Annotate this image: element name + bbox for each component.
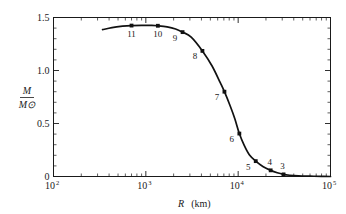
y-tick-label: 0.5 bbox=[37, 118, 50, 129]
data-point-label: 7 bbox=[215, 92, 220, 102]
data-point-label: 6 bbox=[230, 134, 235, 144]
chart-figure: 11109876543 102103104105 00.51.01.5 R(km… bbox=[0, 0, 346, 214]
data-point-marker bbox=[181, 30, 185, 34]
svg-text:5: 5 bbox=[333, 179, 336, 186]
data-point-marker bbox=[223, 90, 227, 94]
y-axis-tick-labels: 00.51.01.5 bbox=[37, 12, 50, 182]
y-axis-title: MM⊙ bbox=[18, 85, 36, 110]
x-axis-unit: (km) bbox=[191, 198, 210, 210]
data-point-marker bbox=[254, 159, 258, 163]
data-point-label: 8 bbox=[193, 51, 198, 61]
data-point-markers bbox=[130, 24, 286, 177]
y-axis-numerator: M bbox=[22, 85, 32, 96]
x-axis-title: R(km) bbox=[177, 198, 211, 210]
mass-radius-plot: 11109876543 102103104105 00.51.01.5 R(km… bbox=[0, 0, 346, 214]
y-axis-ticks bbox=[54, 18, 331, 177]
svg-text:2: 2 bbox=[56, 179, 59, 186]
svg-text:10: 10 bbox=[137, 180, 147, 191]
plot-border bbox=[54, 18, 331, 177]
data-point-marker bbox=[156, 24, 160, 28]
data-point-marker bbox=[201, 49, 205, 53]
data-point-label: 4 bbox=[267, 157, 272, 167]
x-tick-label: 103 bbox=[137, 179, 151, 191]
y-tick-label: 1.5 bbox=[37, 12, 50, 23]
y-axis-denominator: M⊙ bbox=[18, 99, 36, 110]
data-point-marker bbox=[282, 172, 286, 176]
data-point-label: 10 bbox=[153, 29, 163, 39]
x-tick-label: 104 bbox=[230, 179, 245, 191]
x-axis-ticks bbox=[54, 18, 331, 177]
svg-text:10: 10 bbox=[322, 180, 332, 191]
svg-text:10: 10 bbox=[230, 180, 240, 191]
data-point-label: 3 bbox=[280, 161, 285, 171]
data-point-marker bbox=[269, 168, 273, 172]
y-tick-label: 1.0 bbox=[37, 65, 50, 76]
data-point-marker bbox=[237, 132, 241, 136]
svg-text:3: 3 bbox=[148, 179, 151, 186]
data-point-label: 11 bbox=[127, 29, 136, 39]
x-axis-symbol: R bbox=[177, 198, 184, 209]
x-tick-label: 105 bbox=[322, 179, 336, 191]
x-axis-tick-labels: 102103104105 bbox=[45, 179, 336, 191]
data-point-label: 9 bbox=[173, 33, 178, 43]
y-tick-label: 0 bbox=[45, 171, 50, 182]
data-point-label: 5 bbox=[246, 162, 251, 172]
svg-text:4: 4 bbox=[241, 179, 245, 186]
plot-frame bbox=[54, 18, 331, 177]
data-point-marker bbox=[130, 24, 134, 28]
data-point-labels: 11109876543 bbox=[127, 29, 285, 172]
